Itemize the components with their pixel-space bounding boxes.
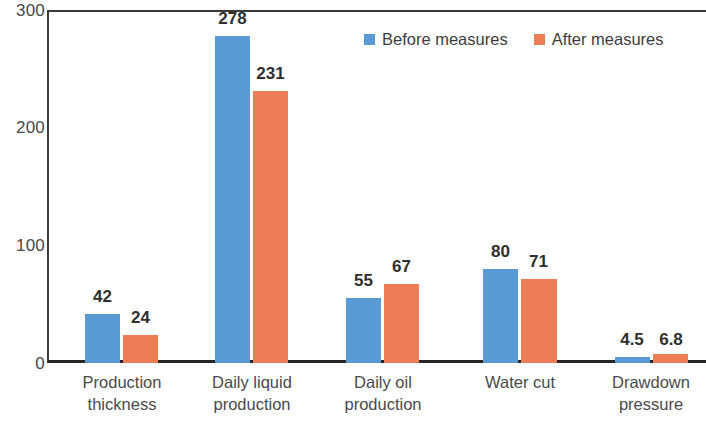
x-label-drawdown-pressure: Drawdown pressure	[591, 372, 706, 416]
legend-label-after: After measures	[552, 31, 664, 48]
legend-swatch-icon-after	[534, 34, 545, 45]
bar-after-daily-liquid-production	[253, 91, 288, 363]
x-label-daily-oil-production: Daily oil production	[323, 372, 443, 416]
bar-after-drawdown-pressure	[653, 354, 688, 363]
bar-after-water-cut	[521, 279, 557, 363]
x-label-production-thickness: Production thickness	[62, 372, 182, 416]
bar-chart: 300 200 100 0 42 24 278 231 55 67 80 71 …	[0, 0, 706, 423]
bar-before-daily-oil-production	[346, 298, 381, 363]
bar-before-drawdown-pressure	[615, 357, 650, 363]
bar-before-daily-liquid-production	[215, 36, 250, 363]
bar-value-after-daily-liquid-production: 231	[243, 65, 298, 82]
bar-after-daily-oil-production	[384, 284, 419, 363]
bar-value-after-water-cut: 71	[511, 253, 566, 270]
x-label-water-cut: Water cut	[460, 372, 580, 394]
legend-swatch-icon-before	[364, 34, 375, 45]
x-label-daily-liquid-production: Daily liquid production	[192, 372, 312, 416]
bar-value-after-production-thickness: 24	[113, 309, 168, 326]
bar-value-before-production-thickness: 42	[75, 288, 130, 305]
legend-label-before: Before measures	[382, 31, 508, 48]
bar-value-before-daily-liquid-production: 278	[205, 10, 260, 27]
bar-value-after-drawdown-pressure: 6.8	[641, 331, 701, 348]
bar-after-production-thickness	[123, 335, 158, 363]
legend-item-after-measures: After measures	[534, 31, 664, 48]
bar-value-after-daily-oil-production: 67	[374, 258, 429, 275]
legend-item-before-measures: Before measures	[364, 31, 508, 48]
bars-layer: 42 24 278 231 55 67 80 71 4.5 6.8	[0, 0, 706, 423]
legend: Before measures After measures	[364, 31, 664, 48]
bar-before-water-cut	[483, 269, 518, 363]
